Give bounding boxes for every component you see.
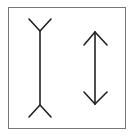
- double-arrow-figure: [84, 32, 107, 104]
- fin-line: [40, 105, 51, 117]
- arrowhead-line: [84, 92, 95, 104]
- frame-border: [9, 8, 126, 129]
- fin-line: [29, 19, 40, 31]
- arrowhead-line: [84, 32, 95, 45]
- arrowhead-line: [95, 92, 107, 104]
- arrowhead-line: [95, 32, 107, 45]
- fin-line: [40, 19, 51, 31]
- illusion-diagram: [0, 0, 133, 136]
- fins-out-figure: [29, 19, 51, 117]
- fin-line: [29, 105, 40, 117]
